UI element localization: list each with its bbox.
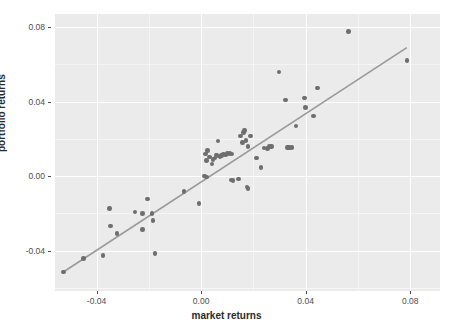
x-tick-label: 0.08 <box>402 296 419 306</box>
data-point <box>315 86 320 91</box>
data-point <box>182 189 187 194</box>
x-tick-mark <box>201 291 202 294</box>
x-tick-mark <box>410 291 411 294</box>
data-point <box>115 231 120 236</box>
data-point <box>242 128 247 133</box>
data-point <box>283 98 288 103</box>
x-axis-title: market returns <box>0 310 453 321</box>
data-point <box>204 175 209 180</box>
data-point <box>246 186 251 191</box>
data-point <box>107 206 112 211</box>
data-point <box>151 218 156 223</box>
y-tick-label: -0.04 <box>26 246 45 256</box>
scatter-plot-figure: -0.040.000.040.08 -0.040.000.040.08 port… <box>0 0 453 328</box>
data-point <box>197 201 202 206</box>
data-point <box>254 156 259 161</box>
data-point <box>81 256 86 261</box>
y-tick-mark <box>48 102 51 103</box>
x-tick-mark <box>306 291 307 294</box>
data-point <box>244 138 249 143</box>
y-tick-mark <box>48 27 51 28</box>
plot-panel <box>55 14 440 291</box>
data-point <box>150 211 155 216</box>
y-tick-label: 0.08 <box>28 22 45 32</box>
data-point <box>346 29 351 34</box>
data-point <box>108 224 113 229</box>
y-tick-label: 0.04 <box>28 97 45 107</box>
x-tick-label: -0.04 <box>87 296 106 306</box>
data-point <box>61 270 66 275</box>
data-point <box>248 134 253 139</box>
data-point <box>311 114 316 119</box>
data-point <box>246 144 251 149</box>
regression-line <box>55 14 440 291</box>
y-tick-mark <box>48 176 51 177</box>
x-tick-label: 0.04 <box>297 296 314 306</box>
data-point <box>140 211 145 216</box>
data-point <box>140 227 145 232</box>
data-point <box>205 148 210 153</box>
y-axis-title: portfolio returns <box>0 74 7 152</box>
data-point <box>290 145 295 150</box>
data-point <box>405 58 410 63</box>
data-point <box>303 105 308 110</box>
y-tick-label: 0.00 <box>28 171 45 181</box>
data-point <box>302 96 307 101</box>
x-tick-label: 0.00 <box>193 296 210 306</box>
x-tick-mark <box>97 291 98 294</box>
data-point <box>269 144 274 149</box>
y-tick-mark <box>48 251 51 252</box>
